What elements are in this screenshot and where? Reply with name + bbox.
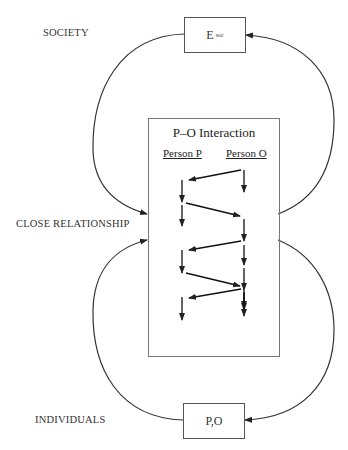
- level-label-close-relationship: CLOSE RELATIONSHIP: [16, 218, 130, 229]
- environment-sub: soc: [216, 32, 224, 38]
- environment-main: E: [206, 28, 213, 43]
- column-header-person-o: Person O: [226, 147, 267, 159]
- column-header-person-p: Person P: [163, 147, 202, 159]
- interaction-box: P–O Interaction Person P Person O: [148, 118, 280, 357]
- level-label-individuals: INDIVIDUALS: [35, 414, 105, 425]
- interaction-title: P–O Interaction: [149, 125, 279, 141]
- environment-node: Esoc: [184, 17, 246, 53]
- persons-node: P,O: [183, 403, 245, 439]
- level-label-society: SOCIETY: [43, 27, 89, 38]
- persons-label: P,O: [205, 414, 222, 429]
